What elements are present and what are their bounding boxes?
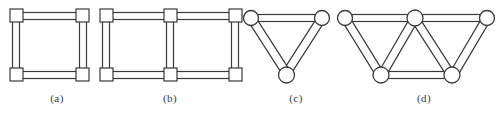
figure-container: (a) (b) (c) (d) bbox=[0, 0, 504, 116]
caption-panel-d: (d) bbox=[417, 92, 431, 104]
joint-c-bottom bbox=[279, 67, 295, 83]
member-d-bottom-chord bbox=[381, 72, 452, 79]
panel-a-structure bbox=[10, 9, 89, 81]
joint-b-bottom-right bbox=[229, 68, 242, 81]
joint-b-top-middle bbox=[164, 9, 177, 22]
joint-b-bottom-left bbox=[100, 68, 113, 81]
member-a-top bbox=[16, 13, 83, 20]
joint-c-top-left bbox=[244, 11, 259, 26]
member-d-top-chord-right bbox=[415, 15, 487, 22]
joint-b-top-left bbox=[100, 9, 113, 22]
member-b-bottom-left-span bbox=[106, 72, 170, 79]
panel-c-structure bbox=[244, 11, 330, 84]
joint-a-bottom-right bbox=[76, 68, 89, 81]
joint-a-bottom-left bbox=[10, 68, 23, 81]
member-b-top-left-span bbox=[106, 13, 170, 20]
caption-panel-c: (c) bbox=[289, 92, 302, 104]
member-b-left-column bbox=[103, 16, 110, 75]
caption-panel-a: (a) bbox=[50, 92, 63, 104]
member-a-right bbox=[80, 16, 87, 75]
caption-row: (a) (b) (c) (d) bbox=[0, 92, 504, 112]
joint-d-bottom-right bbox=[444, 67, 460, 83]
joint-d-bottom-left bbox=[373, 67, 389, 83]
joint-a-top-left bbox=[10, 9, 23, 22]
joint-d-top-right bbox=[480, 11, 495, 26]
joint-d-top-middle bbox=[407, 10, 423, 26]
member-b-middle-column bbox=[167, 16, 174, 75]
member-a-bottom bbox=[16, 72, 83, 79]
member-c-top-chord bbox=[251, 15, 322, 22]
joint-a-top-right bbox=[76, 9, 89, 22]
joint-c-top-right bbox=[315, 11, 330, 26]
member-b-bottom-right-span bbox=[170, 72, 235, 79]
member-b-top-right-span bbox=[170, 13, 235, 20]
member-b-right-column bbox=[232, 16, 239, 75]
joint-d-top-left bbox=[338, 11, 353, 26]
member-d-top-chord-left bbox=[345, 15, 415, 22]
member-a-left bbox=[13, 16, 20, 75]
caption-panel-b: (b) bbox=[163, 92, 177, 104]
joint-b-bottom-middle bbox=[164, 68, 177, 81]
joint-b-top-right bbox=[229, 9, 242, 22]
panel-b-structure bbox=[100, 9, 242, 81]
panel-d-structure bbox=[338, 10, 495, 83]
